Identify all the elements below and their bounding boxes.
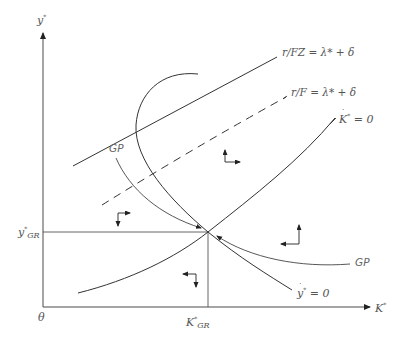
k-gr-label: K*GR xyxy=(186,316,210,330)
gp-upper-curve xyxy=(116,158,201,228)
phase-arrow-left-up xyxy=(281,225,299,244)
kdot-zero-label: ·K* = 0 xyxy=(339,113,373,125)
phase-diagram: y* K* θ y*GR K*GR r/FZ = λ* + δ r/F = λ*… xyxy=(0,0,400,341)
gp-lower-label: GP xyxy=(355,257,369,268)
gp-upper-label: GP xyxy=(109,143,123,154)
r-f-dashed-line xyxy=(102,97,286,205)
phase-arrow-right-down xyxy=(118,213,130,226)
phase-arrow-up-right xyxy=(225,150,240,162)
phase-arrow-left-down xyxy=(183,274,196,287)
gp-lower-curve xyxy=(217,236,350,265)
r-fz-label: r/FZ = λ* + δ xyxy=(282,47,354,58)
r-f-label: r/F = λ* + δ xyxy=(291,87,356,98)
ydot-zero-label: ·y* = 0 xyxy=(297,287,329,299)
y-gr-label: y*GR xyxy=(18,226,40,240)
y-axis-label: y* xyxy=(37,14,46,26)
origin-label: θ xyxy=(38,312,45,323)
r-fz-line xyxy=(73,57,277,166)
x-axis-label: K* xyxy=(375,302,386,314)
